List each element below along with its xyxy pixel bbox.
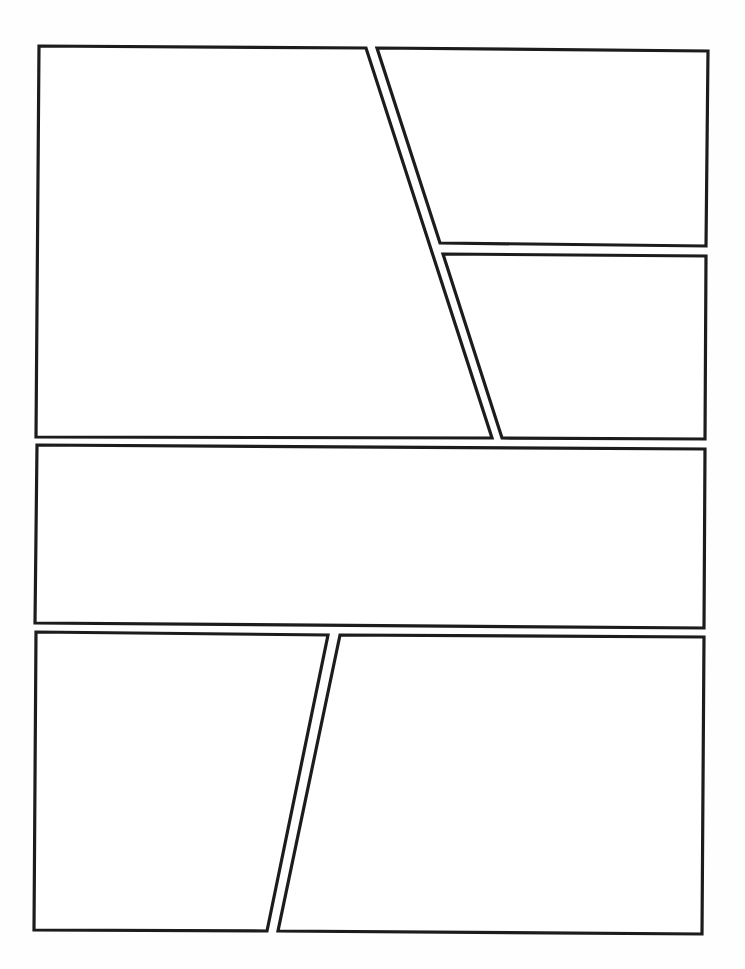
panel-5 — [34, 632, 328, 931]
comic-page-template — [0, 0, 745, 969]
panel-6 — [278, 635, 704, 934]
panel-layout — [0, 0, 745, 969]
panel-4 — [35, 445, 705, 628]
panel-2 — [377, 48, 708, 246]
